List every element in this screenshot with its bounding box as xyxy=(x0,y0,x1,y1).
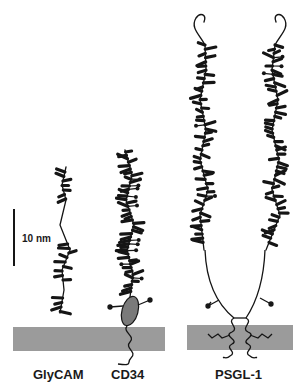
membrane-left xyxy=(13,327,165,351)
label-cd34: CD34 xyxy=(111,367,144,382)
membrane-right xyxy=(187,325,293,350)
label-psgl1: PSGL-1 xyxy=(215,367,262,382)
scale-bar-label: 10 nm xyxy=(22,233,51,244)
psgl1-right-chain xyxy=(262,45,288,250)
psgl1-left-chain xyxy=(191,43,218,250)
glycoprotein-diagram xyxy=(0,0,303,391)
label-glycam: GlyCAM xyxy=(33,367,84,382)
cd34-chain xyxy=(116,150,144,297)
cd34-globular-domain xyxy=(118,294,141,327)
psgl1-side-glycans xyxy=(206,298,273,308)
glycam-chain xyxy=(52,167,76,314)
psgl1-terminal-hooks xyxy=(194,15,286,45)
